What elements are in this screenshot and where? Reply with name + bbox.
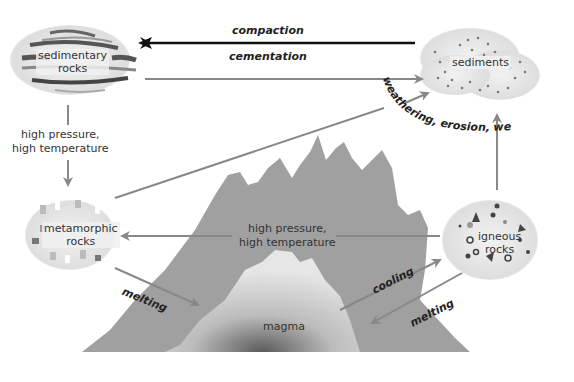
- magma-label: magma: [263, 320, 305, 333]
- ign-to-meta-line2: high temperature: [239, 236, 336, 250]
- sedimentary-rocks-label: sedimentary rocks: [36, 49, 109, 75]
- sed-to-meta-line1: high pressure,: [12, 128, 109, 142]
- sed-to-meta-line2: high temperature: [12, 142, 109, 156]
- cementation-label: cementation: [229, 50, 307, 63]
- sedimentary-label-line1: sedimentary: [38, 49, 107, 62]
- metamorphic-rocks-label: metamorphic rocks: [42, 222, 120, 248]
- metamorphic-label-line1: metamorphic: [44, 222, 118, 235]
- ign-to-meta-condition-label: high pressure, high temperature: [239, 222, 336, 250]
- sediments-label: sediments: [450, 56, 511, 69]
- igneous-label-line1: igneous: [478, 230, 521, 243]
- igneous-rocks-label: igneous rocks: [476, 230, 523, 256]
- compaction-label: compaction: [232, 24, 304, 37]
- igneous-label-line2: rocks: [478, 243, 521, 256]
- metamorphic-label-line2: rocks: [44, 235, 118, 248]
- ign-to-meta-line1: high pressure,: [239, 222, 336, 236]
- sed-to-meta-condition-label: high pressure, high temperature: [12, 128, 109, 156]
- sedimentary-label-line2: rocks: [38, 62, 107, 75]
